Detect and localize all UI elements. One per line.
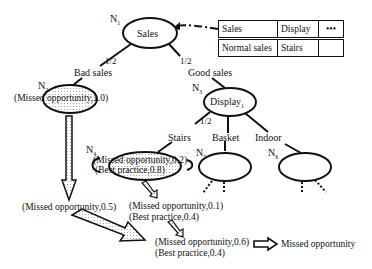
- table-cell: Display: [278, 21, 319, 39]
- edge-label-indoor: Indoor: [255, 132, 282, 143]
- node-n5-ellipse: [199, 153, 251, 181]
- n4-right-brace: [187, 160, 192, 170]
- arrow-n4-mid: [142, 181, 157, 198]
- legend-label: Missed opportunity: [281, 239, 355, 250]
- edge-label-bad-sales: Bad sales: [74, 67, 112, 78]
- edge-label-stairs: Stairs: [168, 132, 191, 143]
- n6-dotted-branch-right: [315, 180, 326, 192]
- edge-prob-good: 1/2: [180, 56, 192, 66]
- table-row: Normal sales Stairs: [219, 39, 344, 57]
- edge-prob-stairs: 1/2: [200, 116, 212, 126]
- n5-dotted-branch-left: [203, 181, 212, 193]
- legend-arrow-icon: [254, 238, 277, 250]
- arrow-n2-down: [62, 116, 76, 200]
- edge-label-basket: Basket: [212, 132, 239, 143]
- table-cell-ellipsis: •••: [319, 21, 344, 39]
- node-n6-id: N6: [268, 147, 278, 160]
- result-final-line2: (Best practice,0.4): [155, 248, 225, 259]
- node-n2-id: N2: [38, 80, 48, 93]
- table-row: Sales Display •••: [219, 21, 344, 39]
- node-n3-id: N3: [192, 82, 202, 95]
- node-n3-label: Display1: [210, 96, 244, 109]
- table-cell: Sales: [219, 21, 278, 39]
- dashed-connector: [176, 25, 218, 29]
- table-cell: Stairs: [278, 39, 319, 57]
- result-mid-line2: (Best practice,0.4): [129, 212, 199, 223]
- node-n5-id: N5: [196, 147, 206, 160]
- result-mid-line1: (Missed opportunity,0.1): [129, 201, 223, 212]
- table-cell: Normal sales: [219, 39, 278, 57]
- node-n1-label: Sales: [137, 28, 158, 39]
- node-n6-ellipse: [279, 153, 331, 181]
- edge-indoor-n6: [285, 144, 301, 153]
- table-cell: [319, 39, 344, 57]
- node-n2-label: (Missed opportunity,1.0): [14, 93, 108, 104]
- attribute-table: Sales Display ••• Normal sales Stairs: [218, 20, 344, 57]
- result-left: (Missed opportunity,0.5): [22, 202, 116, 213]
- edge-label-good-sales: Good sales: [188, 67, 232, 78]
- edge-stairs-n4: [158, 142, 172, 152]
- edge-goodsales-n3: [212, 78, 225, 88]
- node-n4-line2: (Best practice,0.8): [95, 165, 165, 176]
- result-final-line1: (Missed opportunity,0.6): [155, 237, 249, 248]
- edge-prob-bad: 1/2: [105, 56, 117, 66]
- node-n1-id: N1: [110, 13, 120, 26]
- edge-n1-n3: [169, 44, 180, 56]
- edge-n3-indoor: [245, 113, 268, 132]
